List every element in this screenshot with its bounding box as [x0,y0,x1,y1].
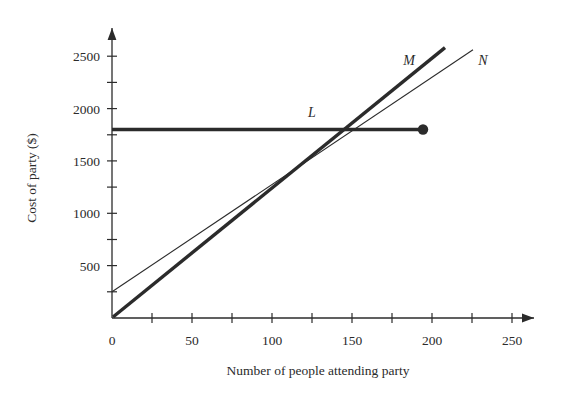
y-axis-title: Cost of party ($) [24,133,39,223]
x-tick-label-50: 50 [185,333,199,348]
series-line-m [113,48,445,317]
y-tick-label-1500: 1500 [73,154,100,169]
series-l-endpoint-dot [418,124,428,134]
y-axis-tick-labels: 500 1000 1500 2000 2500 [73,49,100,273]
y-tick-label-1000: 1000 [73,206,100,221]
y-tick-label-500: 500 [80,259,101,274]
chart-canvas: 0 50 100 150 200 250 500 1000 1500 2000 … [0,0,576,396]
x-tick-label-150: 150 [342,333,363,348]
x-axis-arrow-icon [522,314,534,323]
chart-figure: 0 50 100 150 200 250 500 1000 1500 2000 … [0,0,576,396]
series-label-m: M [402,53,416,68]
x-tick-label-100: 100 [262,333,283,348]
series-label-l: L [307,105,316,120]
axes-group [108,28,534,322]
x-tick-label-250: 250 [502,333,523,348]
series-label-n: N [477,53,488,68]
x-axis-title: Number of people attending party [227,363,410,378]
x-tick-label-0: 0 [109,333,116,348]
y-tick-label-2000: 2000 [73,102,100,117]
y-axis-arrow-icon [108,28,117,40]
x-axis-tick-labels: 0 50 100 150 200 250 [109,333,523,348]
x-tick-label-200: 200 [422,333,443,348]
y-tick-label-2500: 2500 [73,49,100,64]
